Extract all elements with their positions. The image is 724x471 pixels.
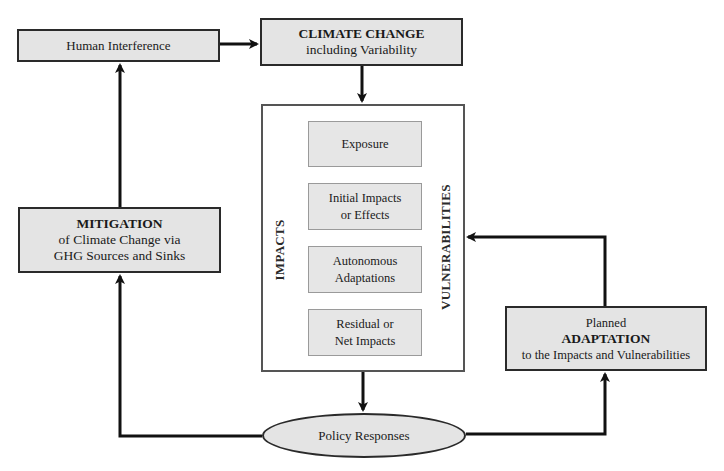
adaptation-node: Planned ADAPTATION to the Impacts and Vu…	[505, 306, 707, 371]
policy-responses-label: Policy Responses	[318, 428, 409, 444]
human-interference-node: Human Interference	[17, 29, 220, 62]
climate-change-node: CLIMATE CHANGE including Variability	[260, 18, 463, 66]
step-autonomous-adaptations: Autonomous Adaptations	[308, 246, 422, 293]
mitigation-title: MITIGATION	[76, 216, 162, 232]
step-residual-impacts: Residual or Net Impacts	[308, 309, 422, 356]
step-label: Initial Impacts	[329, 190, 402, 207]
step-initial-impacts: Initial Impacts or Effects	[308, 183, 422, 230]
mitigation-node: MITIGATION of Climate Change via GHG Sou…	[18, 207, 221, 273]
step-label: Adaptations	[335, 270, 395, 287]
adaptation-line1: Planned	[586, 315, 626, 331]
mitigation-line3: GHG Sources and Sinks	[54, 248, 186, 264]
step-label: Autonomous	[333, 253, 398, 270]
adaptation-line3: to the Impacts and Vulnerabilities	[522, 347, 690, 363]
impacts-label: IMPACTS	[272, 218, 288, 282]
adaptation-title: ADAPTATION	[562, 331, 651, 347]
climate-change-title: CLIMATE CHANGE	[298, 26, 424, 42]
climate-change-subtitle: including Variability	[306, 42, 417, 58]
step-label: Exposure	[341, 136, 388, 153]
step-label: or Effects	[341, 207, 390, 224]
vulnerabilities-label: VULNERABILITIES	[438, 190, 454, 310]
human-interference-label: Human Interference	[66, 38, 170, 54]
mitigation-line2: of Climate Change via	[59, 232, 181, 248]
step-label: Net Impacts	[335, 333, 396, 350]
step-label: Residual or	[336, 316, 393, 333]
policy-responses-node: Policy Responses	[262, 413, 466, 458]
step-exposure: Exposure	[308, 121, 422, 167]
